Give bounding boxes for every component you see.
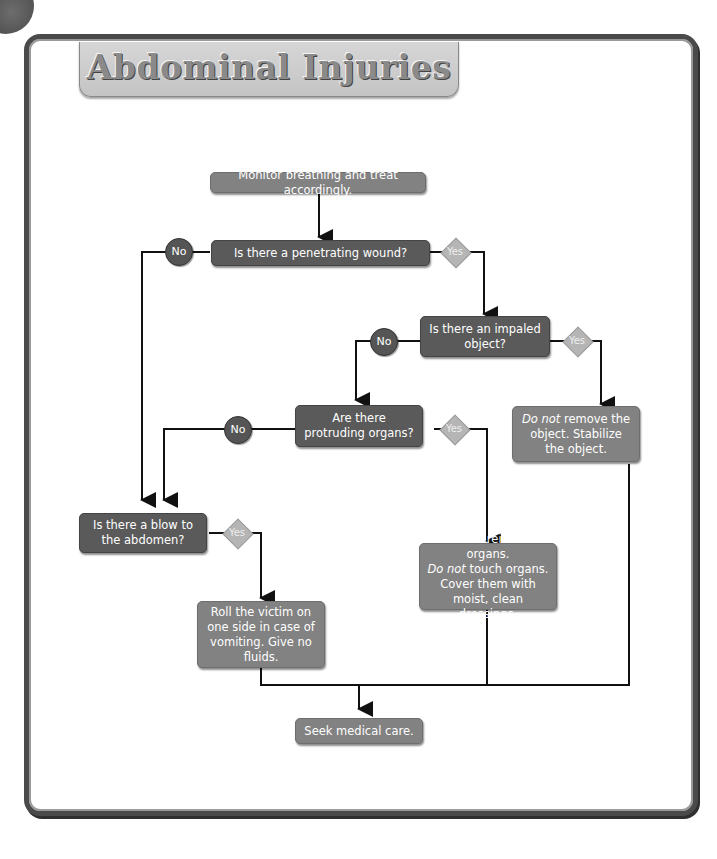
roll-victim-box: Roll the victim on one side in case of v… xyxy=(197,601,325,668)
yes-label-penetrating: Yes xyxy=(441,238,469,266)
do-not-emphasis: Do not xyxy=(522,412,560,426)
do-not-remove-box: Do not remove the object. Stabilize the … xyxy=(512,406,640,462)
no-label-penetrating: No xyxy=(165,238,193,266)
penetrating-wound-question: Is there a penetrating wound? xyxy=(211,240,430,266)
touch-text: touch organs. xyxy=(466,562,549,576)
organs-care-box: Do not reinsert organs. Do not touch org… xyxy=(419,543,557,610)
yes-label-protruding: Yes xyxy=(440,415,468,443)
no-label-impaled: No xyxy=(370,328,398,356)
blow-to-abdomen-question: Is there a blow to the abdomen? xyxy=(79,513,207,553)
no-label-protruding: No xyxy=(224,416,252,444)
protruding-organs-question: Are there protruding organs? xyxy=(295,405,423,447)
yes-label-blow: Yes xyxy=(223,519,251,547)
do-not-emphasis: Do not xyxy=(428,562,466,576)
impaled-object-question: Is there an impaled object? xyxy=(420,316,550,357)
cover-text: Cover them with moist, clean dressings. xyxy=(426,577,550,622)
do-not-emphasis: Do not xyxy=(445,532,483,546)
monitor-breathing-box: Monitor breathing and treat accordingly. xyxy=(210,172,426,193)
seek-medical-care-box: Seek medical care. xyxy=(295,718,423,744)
yes-label-impaled: Yes xyxy=(563,327,591,355)
